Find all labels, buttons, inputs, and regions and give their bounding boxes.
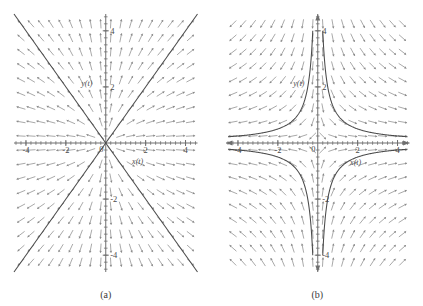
field-arrow-head (163, 134, 165, 137)
caption-a: (a) (0, 289, 212, 300)
field-arrow-head (110, 75, 113, 77)
plot-a-canvas: -4-224042-2-4x(t)y(t) (0, 0, 212, 280)
y-axis-name-label: y(t) (80, 79, 92, 88)
hyperbola-curve (322, 31, 407, 137)
field-arrow-head (99, 195, 102, 197)
y-tick-label-pos4: 4 (322, 26, 327, 36)
field-arrow-head (110, 47, 113, 49)
y-tick-label-pos4: 4 (110, 26, 115, 36)
field-arrow-head (153, 149, 155, 152)
field-arrow-head (311, 188, 314, 190)
field-arrow-head (321, 68, 324, 70)
field-arrow-head (99, 209, 102, 211)
field-arrow-head (173, 149, 175, 152)
y-tick-label-neg2: -2 (110, 194, 117, 204)
hyperbola-curve (227, 149, 312, 255)
field-arrow-head (311, 202, 314, 204)
field-arrow-head (110, 19, 113, 21)
field-arrow-head (16, 149, 18, 152)
field-arrow-head (311, 258, 314, 260)
plot-b-direction-field: -4-224042-2-4x(t)y(t) (212, 0, 423, 280)
field-arrow-head (110, 265, 113, 267)
field-arrow-head (110, 209, 113, 211)
y-tick-label-neg4: -4 (322, 250, 330, 260)
field-arrow-head (365, 135, 367, 138)
field-arrow-head (268, 148, 270, 151)
field-arrow-head (46, 134, 48, 137)
x-axis-arrowhead-left (226, 141, 232, 146)
field-arrow-head (375, 135, 377, 138)
field-arrow-head (258, 135, 260, 138)
y-axis-arrowhead-bottom (315, 266, 320, 272)
field-arrow-head (183, 135, 185, 138)
field-arrow-head (311, 26, 314, 28)
field-arrow-head (99, 33, 102, 35)
field-arrow-head (268, 135, 270, 138)
x-tick-label-neg4: -4 (22, 145, 30, 155)
x-axis-name-label: x(t) (131, 157, 143, 166)
hyperbola-curve (322, 149, 407, 255)
field-arrow-head (355, 135, 357, 138)
field-arrow-head (143, 134, 145, 137)
field-arrow-head (375, 148, 377, 151)
x-tick-label-neg2: -2 (274, 145, 281, 155)
y-tick-label-pos2: 2 (110, 82, 114, 92)
field-arrow-head (26, 135, 28, 138)
plot-b-canvas: -4-224042-2-4x(t)y(t) (212, 0, 423, 280)
y-tick-label-neg2: -2 (322, 194, 329, 204)
field-arrow-head (99, 265, 102, 267)
field-arrow-head (110, 237, 113, 239)
y-axis-arrowhead-top (315, 14, 320, 20)
field-arrow-head (365, 148, 367, 151)
field-arrow-head (153, 134, 155, 137)
x-tick-label-pos4: 4 (183, 145, 188, 155)
x-tick-label-pos4: 4 (395, 145, 400, 155)
x-tick-label-neg4: -4 (234, 145, 242, 155)
field-arrow-head (311, 216, 314, 218)
figure-container: -4-224042-2-4x(t)y(t) (a) -4-224042-2-4x… (0, 0, 423, 306)
field-arrow-head (99, 47, 102, 49)
field-arrow-head (193, 149, 195, 152)
x-tick-label-pos2: 2 (355, 145, 359, 155)
field-arrow-head (311, 82, 314, 84)
field-arrow-head (99, 75, 102, 77)
field-arrow-head (36, 135, 38, 138)
plot-a-direction-field: -4-224042-2-4x(t)y(t) (0, 0, 212, 280)
field-arrow-head (46, 149, 48, 152)
field-arrow-head (163, 149, 165, 152)
field-arrow-head (56, 149, 58, 152)
field-arrow-head (99, 237, 102, 239)
axes-group (226, 14, 410, 272)
caption-b: (b) (212, 289, 423, 300)
x-tick-label-neg2: -2 (62, 145, 69, 155)
field-arrow-head (173, 135, 175, 138)
x-axis-arrowhead-right (403, 141, 409, 146)
field-arrow-head (258, 148, 260, 151)
field-arrow-head (321, 188, 324, 190)
field-arrow-head (311, 68, 314, 70)
field-arrow-head (99, 19, 102, 21)
field-arrow-head (321, 96, 324, 98)
field-arrow-head (278, 135, 280, 138)
origin-label: 0 (99, 144, 103, 154)
y-axis-name-label: y(t) (292, 79, 304, 88)
field-arrow-head (56, 134, 58, 137)
field-arrow-head (193, 135, 195, 138)
field-arrow-head (110, 223, 113, 225)
field-arrow-head (311, 96, 314, 98)
origin-label: 0 (311, 144, 315, 154)
y-tick-label-neg4: -4 (110, 250, 118, 260)
panel-b: -4-224042-2-4x(t)y(t) (b) (212, 0, 423, 306)
field-arrow-head (99, 89, 102, 91)
x-axis-name-label: x(t) (349, 158, 361, 167)
field-arrow-head (321, 216, 324, 218)
field-arrow-head (99, 251, 102, 253)
x-tick-label-pos2: 2 (144, 145, 148, 155)
field-arrow-head (16, 135, 18, 138)
field-arrow-head (66, 134, 68, 137)
field-arrow-head (99, 223, 102, 225)
field-arrow-head (36, 149, 38, 152)
field-arrow-head (110, 61, 113, 63)
field-arrow-head (99, 61, 102, 63)
y-tick-label-pos2: 2 (322, 82, 326, 92)
